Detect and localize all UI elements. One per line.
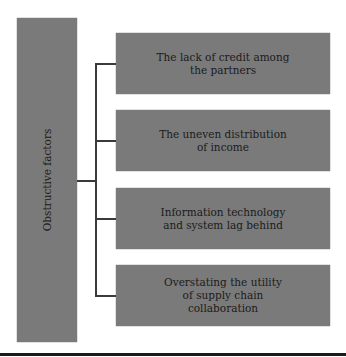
connector-branch-3 bbox=[95, 218, 116, 220]
child-label-1: The lack of credit among the partners bbox=[148, 51, 298, 77]
connector-branch-1 bbox=[95, 63, 116, 65]
bottom-rule bbox=[0, 353, 346, 356]
connector-root-horizontal bbox=[77, 180, 96, 182]
connector-trunk-vertical bbox=[95, 63, 97, 296]
child-label-3: Information technology and system lag be… bbox=[158, 206, 288, 232]
root-node: Obstructive factors bbox=[17, 18, 77, 342]
connector-branch-2 bbox=[95, 140, 116, 142]
connector-branch-4 bbox=[95, 295, 116, 297]
root-label: Obstructive factors bbox=[41, 129, 53, 232]
child-label-4: Overstating the utility of supply chain … bbox=[158, 276, 288, 315]
child-node-2: The uneven distribution of income bbox=[116, 110, 330, 171]
child-node-1: The lack of credit among the partners bbox=[116, 33, 330, 94]
child-node-4: Overstating the utility of supply chain … bbox=[116, 265, 330, 326]
child-label-2: The uneven distribution of income bbox=[158, 128, 288, 154]
child-node-3: Information technology and system lag be… bbox=[116, 188, 330, 249]
